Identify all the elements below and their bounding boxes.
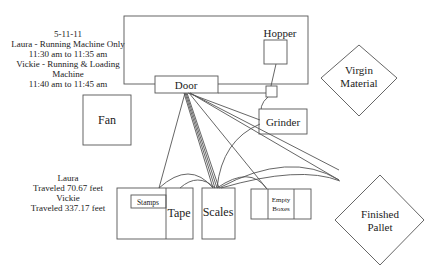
notes-line1: Laura - Running Machine Only: [11, 39, 125, 49]
empty-boxes-box: [251, 189, 311, 219]
stamps-label: Stamps: [137, 198, 159, 207]
notes-line5: 11:40 am to 11:45 am: [29, 79, 107, 89]
notes-line4: Machine: [52, 69, 84, 79]
virgin-label-1: Virgin: [345, 64, 373, 76]
hopper-box: [264, 40, 287, 64]
finished-pallet-diamond: [335, 175, 424, 265]
notes-line2: 11:30 am to 11:35 am: [29, 49, 107, 59]
empty-label-1: Empty: [272, 196, 291, 204]
fan-label: Fan: [98, 113, 116, 127]
vickie-name: Vickie: [56, 193, 79, 203]
spaghetti-diagram: 5-11-11 Laura - Running Machine Only 11:…: [0, 0, 441, 274]
notes-date: 5-11-11: [54, 29, 82, 39]
grinder-label: Grinder: [266, 116, 301, 128]
laura-name: Laura: [58, 173, 79, 183]
virgin-label-2: Material: [340, 77, 377, 89]
tape-label: Tape: [167, 206, 190, 220]
travel-paths: [159, 93, 340, 189]
notes-line3: Vickie - Running & Loading: [16, 59, 120, 69]
vickie-distance: Traveled 337.17 feet: [31, 203, 106, 213]
hopper-label: Hopper: [264, 27, 297, 39]
scales-label: Scales: [203, 205, 234, 219]
door-label: Door: [175, 79, 198, 91]
pallet-label-1: Finished: [361, 208, 399, 220]
laura-distance: Traveled 70.67 feet: [33, 183, 103, 193]
hopper-feed-line: [271, 64, 276, 86]
feed-square: [266, 86, 277, 97]
empty-label-2: Boxes: [272, 205, 290, 213]
pallet-label-2: Pallet: [367, 221, 392, 233]
